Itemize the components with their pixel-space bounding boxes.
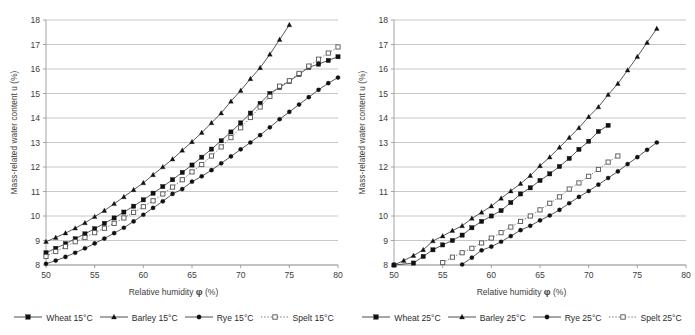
legend-left: Wheat 15°CBarley 15°CRye 15°CSpelt 15°C [0, 307, 347, 329]
legend-item[interactable]: Barley 25°C [444, 311, 529, 325]
svg-text:15: 15 [30, 89, 40, 99]
x-axis-title-left: Relative humidity φ (%) [0, 286, 347, 297]
x-axis-unit: (%) [205, 287, 218, 297]
legend-marker-icon [13, 311, 43, 325]
chart-panel-right: Mass-related water content u (%) 8910111… [348, 0, 695, 335]
legend-item-label: Barley 25°C [480, 313, 526, 323]
svg-text:16: 16 [30, 64, 40, 74]
legend-item[interactable]: Wheat 15°C [10, 311, 95, 325]
legend-item-label: Spelt 25°C [641, 313, 682, 323]
plot-svg-left: 8910111213141516171850556065707580 [0, 0, 347, 282]
svg-text:13: 13 [30, 138, 40, 148]
legend-marker-icon [447, 311, 477, 325]
legend-item[interactable]: Spelt 15°C [257, 311, 337, 325]
svg-text:75: 75 [285, 270, 295, 280]
x-axis-title-text: Relative humidity [477, 287, 542, 297]
svg-text:12: 12 [30, 162, 40, 172]
svg-text:18: 18 [378, 15, 388, 25]
svg-text:50: 50 [389, 270, 399, 280]
x-axis-title-text: Relative humidity [129, 287, 194, 297]
legend-item-label: Barley 15°C [132, 313, 178, 323]
svg-text:17: 17 [30, 40, 40, 50]
svg-text:13: 13 [378, 138, 388, 148]
svg-text:60: 60 [139, 270, 149, 280]
legend-right: Wheat 25°CBarley 25°CRye 25°CSpelt 25°C [348, 307, 695, 329]
phi-symbol: φ [544, 286, 551, 297]
svg-text:9: 9 [383, 236, 388, 246]
svg-text:80: 80 [681, 270, 691, 280]
legend-item[interactable]: Spelt 25°C [605, 311, 685, 325]
svg-text:70: 70 [584, 270, 594, 280]
svg-text:55: 55 [90, 270, 100, 280]
x-axis-unit: (%) [553, 287, 566, 297]
plot-area-right: 8910111213141516171850556065707580 [348, 0, 695, 282]
legend-item-label: Wheat 25°C [394, 313, 440, 323]
legend-item[interactable]: Barley 15°C [96, 311, 181, 325]
legend-item-label: Rye 25°C [565, 313, 602, 323]
legend-marker-icon [184, 311, 214, 325]
svg-text:11: 11 [31, 187, 40, 197]
legend-marker-icon [260, 311, 290, 325]
svg-text:65: 65 [535, 270, 545, 280]
svg-text:65: 65 [187, 270, 197, 280]
svg-text:8: 8 [35, 260, 40, 270]
svg-text:14: 14 [30, 113, 40, 123]
plot-svg-right: 8910111213141516171850556065707580 [348, 0, 695, 282]
legend-item[interactable]: Wheat 25°C [358, 311, 443, 325]
svg-text:9: 9 [35, 236, 40, 246]
svg-text:10: 10 [378, 211, 388, 221]
svg-text:55: 55 [438, 270, 448, 280]
svg-text:18: 18 [30, 15, 40, 25]
svg-text:12: 12 [378, 162, 388, 172]
svg-text:50: 50 [41, 270, 51, 280]
legend-marker-icon [99, 311, 129, 325]
legend-item-label: Wheat 15°C [46, 313, 92, 323]
legend-item-label: Spelt 15°C [293, 313, 334, 323]
legend-marker-icon [608, 311, 638, 325]
legend-item[interactable]: Rye 15°C [181, 311, 257, 325]
svg-text:75: 75 [633, 270, 643, 280]
legend-marker-icon [361, 311, 391, 325]
svg-text:16: 16 [378, 64, 388, 74]
chart-panel-left: Mass-related water content u (%) 8910111… [0, 0, 347, 335]
svg-text:60: 60 [487, 270, 497, 280]
svg-text:11: 11 [379, 187, 388, 197]
svg-text:14: 14 [378, 113, 388, 123]
svg-text:10: 10 [30, 211, 40, 221]
svg-text:15: 15 [378, 89, 388, 99]
svg-text:70: 70 [236, 270, 246, 280]
svg-text:17: 17 [378, 40, 388, 50]
svg-text:8: 8 [383, 260, 388, 270]
legend-item[interactable]: Rye 25°C [529, 311, 605, 325]
svg-text:80: 80 [333, 270, 343, 280]
phi-symbol: φ [196, 286, 203, 297]
x-axis-title-right: Relative humidity φ (%) [348, 286, 695, 297]
plot-area-left: 8910111213141516171850556065707580 [0, 0, 347, 282]
legend-marker-icon [532, 311, 562, 325]
chart-figure: Mass-related water content u (%) 8910111… [0, 0, 695, 335]
legend-item-label: Rye 15°C [217, 313, 254, 323]
